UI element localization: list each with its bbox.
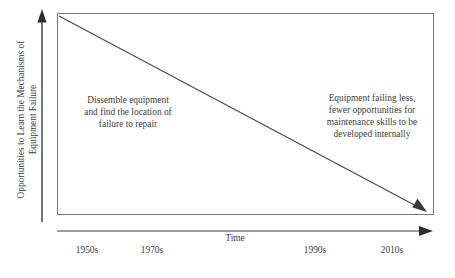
annotation-left-line-3: failure to repair [68,119,188,131]
annotation-right-line-3: maintenance skills to be [310,117,434,129]
annotation-right-line-2: fewer opportunities for [310,105,434,117]
y-axis-label-line-2: Equipment Failure [28,20,40,220]
y-axis-label-line-1: Opportunities to Learn the Mechanisms of [16,20,28,220]
annotation-left: Dissemble equipment and find the locatio… [68,95,188,131]
annotation-left-line-2: and find the location of [68,107,188,119]
x-tick-label-1970s: 1970s [125,245,179,255]
x-tick-label-1990s: 1990s [288,245,342,255]
annotation-right-line-1: Equipment failing less, [310,93,434,105]
x-axis-label: Time [205,233,265,243]
x-tick-label-2010s: 2010s [365,245,419,255]
annotation-left-line-1: Dissemble equipment [68,95,188,107]
x-tick-label-1950s: 1950s [60,245,114,255]
figure-container: Opportunities to Learn the Mechanisms of… [0,0,455,278]
annotation-right: Equipment failing less, fewer opportunit… [310,93,434,141]
annotation-right-line-4: developed internally [310,129,434,141]
y-axis-label: Opportunities to Learn the Mechanisms of… [16,20,39,220]
